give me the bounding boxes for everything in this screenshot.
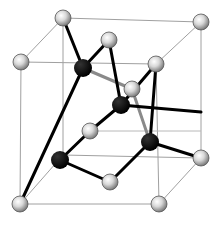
grey-atom	[193, 14, 209, 30]
grey-atom	[101, 32, 117, 48]
black-atom	[74, 59, 92, 77]
diamond-lattice-diagram	[0, 0, 221, 225]
grey-atom	[193, 150, 209, 166]
grey-atom	[124, 81, 140, 97]
black-atom	[51, 151, 69, 169]
black-atom	[112, 96, 130, 114]
grey-atom	[55, 10, 71, 26]
grey-atom	[12, 196, 28, 212]
grey-atom	[102, 174, 118, 190]
grey-atom	[148, 56, 164, 72]
grey-atom	[13, 54, 29, 70]
grey-atom	[151, 196, 167, 212]
black-atom	[141, 133, 159, 151]
grey-atom	[82, 123, 98, 139]
